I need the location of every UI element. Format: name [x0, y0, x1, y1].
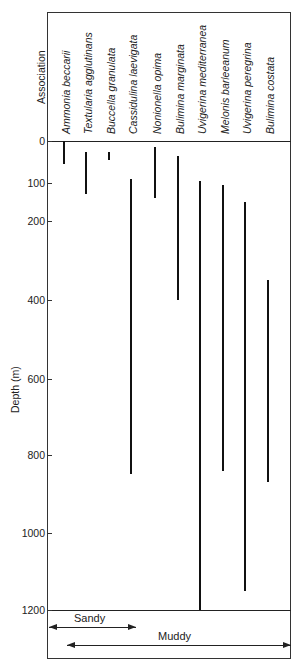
association-axis-title: Association — [35, 50, 47, 104]
species-label: Bulimina marginata — [174, 44, 186, 134]
y-tick-label: 200 — [9, 215, 45, 227]
species-label: Bulimina costata — [264, 57, 276, 134]
range-bar — [85, 152, 87, 195]
arrow-head-left-icon — [49, 624, 57, 630]
range-bar — [244, 202, 246, 591]
max-depth-line — [47, 610, 291, 611]
y-tick-label: 0 — [9, 135, 45, 147]
y-tick — [47, 300, 52, 301]
species-label: Textularia agglutinans — [82, 32, 94, 134]
range-bar — [222, 185, 224, 471]
y-tick — [47, 183, 52, 184]
y-tick-label: 800 — [9, 449, 45, 461]
species-label: Nonionella opima — [151, 53, 163, 134]
sandy-label: Sandy — [74, 612, 105, 624]
y-tick-label: 1200 — [9, 604, 45, 616]
y-tick — [47, 533, 52, 534]
y-tick-label: 600 — [9, 373, 45, 385]
y-tick-label: 100 — [9, 177, 45, 189]
range-bar — [267, 280, 269, 482]
range-bar — [154, 147, 156, 198]
arrow-head-left-icon — [67, 642, 75, 648]
y-tick-label: 1000 — [9, 527, 45, 539]
range-bar — [130, 179, 132, 475]
y-tick — [47, 141, 52, 142]
range-bar — [63, 141, 65, 164]
species-label: Cassidulina laevigata — [127, 35, 139, 134]
sandy-arrow — [49, 627, 136, 628]
range-bar — [199, 181, 201, 610]
species-label: Uvigerina mediterranea — [196, 25, 208, 134]
y-tick — [47, 379, 52, 380]
muddy-label: Muddy — [158, 630, 191, 642]
species-label: Buccella granulata — [105, 48, 117, 134]
species-label: Uvigerina peregrina — [241, 42, 253, 134]
y-tick-label: 400 — [9, 294, 45, 306]
range-bar — [108, 152, 110, 160]
zero-depth-line — [47, 141, 291, 142]
species-label: Melonis barleeanum — [219, 39, 231, 134]
arrow-head-right-icon — [128, 624, 136, 630]
y-tick — [47, 610, 52, 611]
depth-range-chart: Association Depth (m) Ammonia beccariiTe… — [0, 0, 308, 663]
muddy-arrow — [67, 645, 291, 646]
y-tick — [47, 221, 52, 222]
arrow-head-right-icon — [283, 642, 291, 648]
species-label: Ammonia beccarii — [60, 51, 72, 134]
range-bar — [177, 156, 179, 300]
y-tick — [47, 455, 52, 456]
